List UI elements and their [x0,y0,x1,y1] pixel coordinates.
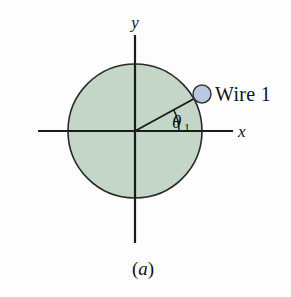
angle-theta-subscript: 1 [184,121,190,135]
wire-1-marker-icon [193,85,211,103]
physics-figure-diagram: x y θ 1 Wire 1 (a) [0,0,291,297]
caption-letter: a [138,258,148,279]
x-axis-label: x [237,122,246,141]
figure-caption: (a) [132,258,154,280]
figure-container: x y θ 1 Wire 1 (a) [0,0,291,297]
wire-1-label: Wire 1 [215,83,271,105]
y-axis-label: y [129,13,139,32]
angle-theta-label: θ [172,111,181,132]
caption-paren-close: ) [148,258,154,280]
